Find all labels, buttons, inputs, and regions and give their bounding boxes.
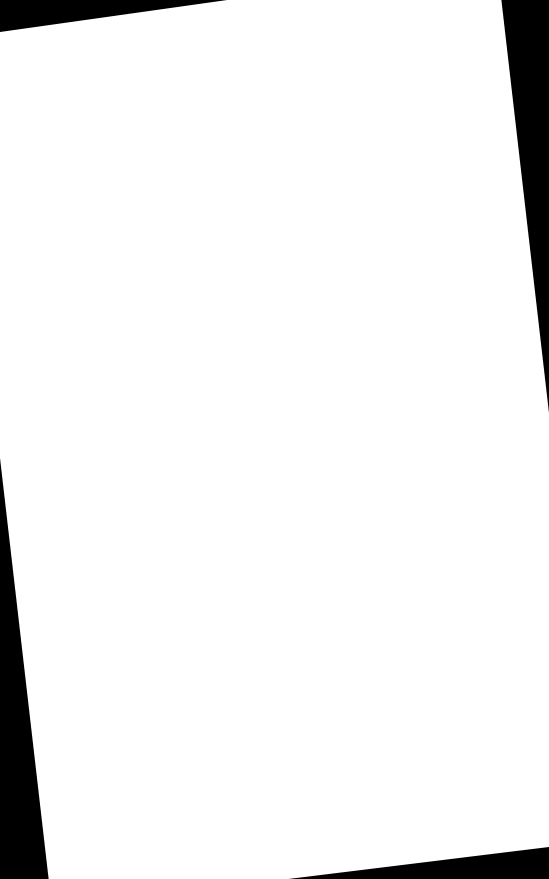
blank-document-page [0,0,549,879]
